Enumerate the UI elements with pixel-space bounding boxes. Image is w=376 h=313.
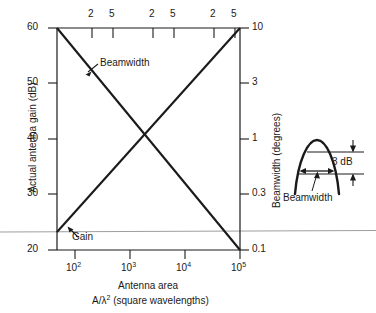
bottom-xtick-exponent-1e4: 4 [187, 261, 191, 268]
bottom-xtick-label-1e2: 102 [66, 261, 81, 273]
top-xtick-label-5: 2 [210, 8, 216, 19]
xaxis-title-line1: Antenna area [118, 280, 178, 291]
right-ytick-label-0.1: 0.1 [252, 243, 266, 254]
top-xtick-label-2: 5 [109, 8, 115, 19]
xaxis-title-suffix: (square wavelengths) [110, 295, 208, 306]
bottom-xtick-exponent-1e5: 5 [242, 261, 246, 268]
right-ytick-label-10: 10 [252, 21, 263, 32]
top-xtick-label-1: 2 [88, 8, 94, 19]
top-xtick-label-3: 2 [149, 8, 155, 19]
annotation-gain: Gain [72, 231, 93, 242]
right-ytick-label-0.3: 0.3 [252, 187, 266, 198]
bottom-xtick-mantissa-1e4: 10 [176, 262, 187, 273]
left-ytick-label-20: 20 [27, 243, 38, 254]
bottom-xtick-mantissa-1e2: 10 [66, 262, 77, 273]
right-ytick-label-3: 3 [252, 76, 258, 87]
left-ytick-label-60: 60 [27, 21, 38, 32]
yaxis-right-title: Beamwidth (degrees) [271, 81, 282, 241]
right-ytick-label-1: 1 [252, 132, 258, 143]
xaxis-title-line2: A/λ2 (square wavelengths) [92, 294, 209, 306]
bottom-xtick-mantissa-1e3: 10 [121, 262, 132, 273]
annotation-beamwidth: Beamwidth [100, 57, 149, 68]
antenna-gain-beamwidth-figure: 60 50 40 30 20 10 3 1 0.3 0.1 2 5 2 5 2 … [0, 0, 376, 313]
inset-beamwidth-label: Beamwidth [283, 192, 332, 203]
bottom-xtick-label-1e3: 103 [121, 261, 136, 273]
bottom-xtick-label-1e5: 105 [231, 261, 246, 273]
bottom-xtick-exponent-1e3: 3 [132, 261, 136, 268]
inset-three-db-label: 3 dB [332, 156, 353, 167]
bottom-xtick-label-1e4: 104 [176, 261, 191, 273]
yaxis-left-title: Actual antenna gain (dB) [27, 58, 38, 218]
bottom-xtick-exponent-1e2: 2 [77, 261, 81, 268]
bottom-xtick-mantissa-1e5: 10 [231, 262, 242, 273]
top-xtick-label-4: 5 [170, 8, 176, 19]
top-xtick-label-6: 5 [231, 8, 237, 19]
